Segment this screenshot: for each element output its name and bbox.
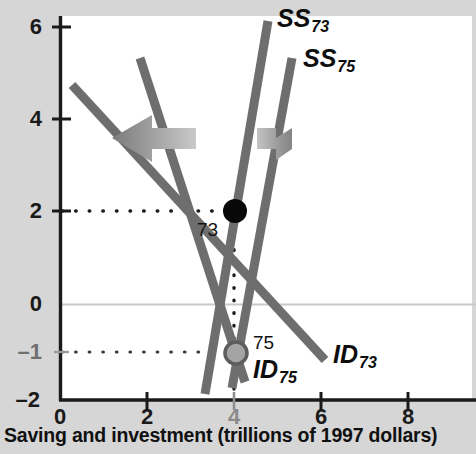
curve-label-ss75-base: SS [303,44,336,72]
curve-label-ss73-sub: 73 [311,18,329,35]
equilibrium-point-75[interactable] [225,342,247,364]
curve-label-id73: ID73 [333,340,376,369]
curve-label-id75-base: ID [253,355,278,383]
curve-label-ss73-base: SS [277,4,310,32]
y-tick-label-2: 2 [2,198,42,224]
curve-label-id73-base: ID [333,340,358,368]
curve-label-id73-sub: 73 [359,354,377,371]
supply-demand-chart [0,0,476,454]
y-tick-label-minus1: –1 [2,339,42,365]
y-tick-label-4: 4 [2,106,42,132]
equilibrium-point-73[interactable] [223,199,247,223]
curve-label-ss75: SS75 [303,44,354,73]
x-axis-title: Saving and investment (trillions of 1997… [4,424,437,447]
curve-label-ss73: SS73 [277,4,328,33]
curve-label-ss75-sub: 75 [337,58,355,75]
y-tick-label-minus2: –2 [0,387,40,413]
y-tick-label-6: 6 [2,14,42,40]
curve-label-id75: ID75 [253,355,296,384]
point-label-73: 73 [197,219,218,241]
point-label-75: 75 [253,332,274,354]
curve-label-id75-sub: 75 [279,369,297,386]
y-tick-label-0: 0 [2,291,42,317]
